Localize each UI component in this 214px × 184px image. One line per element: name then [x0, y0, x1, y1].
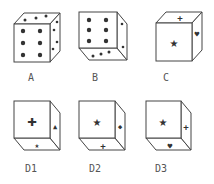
label-d3: D3 — [146, 163, 176, 174]
front-face — [14, 24, 50, 62]
heart-icon: ♥ — [168, 142, 173, 151]
cube-c-drawing: ★ + ♥ — [140, 0, 214, 70]
star-icon: ★ — [93, 113, 102, 129]
cube-puzzle-figure: A B — [0, 0, 214, 184]
cube-b-drawing — [70, 0, 140, 70]
cube-d1: ✚ ▲ ★ — [0, 92, 70, 162]
label-d1: D1 — [16, 163, 46, 174]
cube-d2-drawing: ★ ◆ + — [70, 92, 140, 162]
cube-b — [70, 0, 140, 70]
cube-d3-drawing: ★ + ♥ — [140, 92, 214, 162]
star-icon: ★ — [35, 141, 40, 150]
label-a: A — [16, 72, 46, 83]
label-b: B — [80, 72, 110, 83]
plus-icon: ✚ — [27, 111, 37, 130]
cube-a — [0, 0, 70, 70]
label-c: C — [151, 72, 181, 83]
cube-d3: ★ + ♥ — [140, 92, 214, 162]
plus-icon: + — [177, 13, 183, 23]
cube-c: ★ + ♥ — [140, 0, 214, 70]
star-icon: ★ — [170, 34, 179, 50]
front-face — [79, 12, 117, 48]
star-icon: ★ — [159, 113, 168, 129]
cube-d1-drawing: ✚ ▲ ★ — [0, 92, 70, 162]
heart-icon: ♥ — [195, 30, 200, 39]
cube-d2: ★ ◆ + — [70, 92, 140, 162]
cube-a-drawing — [0, 0, 70, 70]
label-d2: D2 — [80, 163, 110, 174]
plus-icon: + — [100, 141, 106, 151]
plus-icon: + — [183, 122, 189, 132]
